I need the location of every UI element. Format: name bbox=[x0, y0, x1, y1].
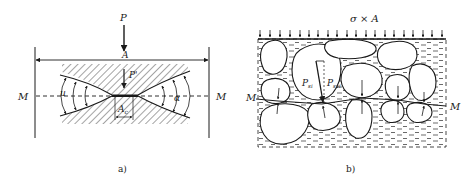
right-plane-label: M bbox=[215, 91, 227, 102]
figure-b: σ × A M M Psi Psvi b) bbox=[245, 13, 461, 174]
distributed-load-arrows-icon bbox=[260, 30, 442, 37]
distributed-load-label: σ × A bbox=[350, 13, 379, 24]
figure-a: P A M M P' Ac u bbox=[17, 12, 227, 174]
left-angle-label: u bbox=[60, 88, 66, 98]
left-plane-label: M bbox=[245, 92, 257, 103]
right-angle-label: α bbox=[174, 93, 180, 103]
caption-a: a) bbox=[118, 164, 127, 174]
load-label: P bbox=[119, 12, 127, 23]
contact-load-label: P' bbox=[128, 70, 138, 80]
figure-canvas: P A M M P' Ac u bbox=[0, 0, 476, 185]
area-label: A bbox=[121, 50, 129, 60]
left-plane-label: M bbox=[17, 91, 29, 102]
caption-b: b) bbox=[346, 164, 355, 174]
right-plane-label: M bbox=[449, 101, 461, 112]
